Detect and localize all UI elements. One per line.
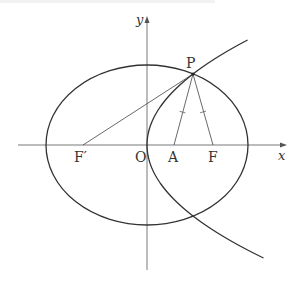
y-axis-arrow-icon xyxy=(145,16,150,23)
label-a: A xyxy=(167,149,179,165)
label-f: F xyxy=(208,149,218,165)
label-f-prime: F′ xyxy=(74,149,87,165)
axes xyxy=(18,16,287,270)
diagram-canvas: P F′ O A F x y xyxy=(0,0,297,284)
cropped-header-text xyxy=(0,0,215,3)
tick-mark-pf-icon xyxy=(200,111,206,113)
point-p-dot xyxy=(191,72,194,75)
label-p: P xyxy=(186,55,195,71)
parabola-curve xyxy=(147,40,264,258)
x-axis-arrow-icon xyxy=(280,143,287,148)
label-x-axis: x xyxy=(278,148,286,163)
segment-p-f xyxy=(193,74,213,145)
label-origin: O xyxy=(135,149,146,165)
label-y-axis: y xyxy=(135,12,144,27)
